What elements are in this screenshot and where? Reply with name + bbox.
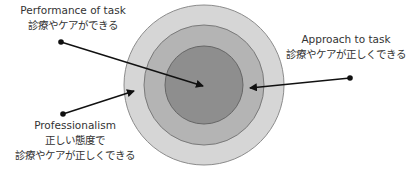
- inner-ring-performance: [165, 46, 243, 124]
- concentric-competency-diagram: Performance of task 診療やケアができる Approach t…: [0, 0, 414, 172]
- professionalism-description-line2: 診療やケアが正しくできる: [0, 148, 150, 163]
- approach-title: Approach to task: [278, 32, 414, 47]
- approach-description: 診療やケアが正しくできる: [278, 47, 414, 62]
- label-performance: Performance of task 診療やケアができる: [8, 3, 138, 33]
- professionalism-arrow-line: [63, 91, 134, 114]
- performance-description: 診療やケアができる: [8, 18, 138, 33]
- label-professionalism: Professionalism 正しい態度で 診療やケアが正しくできる: [0, 118, 150, 163]
- professionalism-description-line1: 正しい態度で: [0, 133, 150, 148]
- professionalism-title: Professionalism: [0, 118, 150, 133]
- performance-title: Performance of task: [8, 3, 138, 18]
- professionalism-connector: [60, 91, 134, 117]
- label-approach: Approach to task 診療やケアが正しくできる: [278, 32, 414, 62]
